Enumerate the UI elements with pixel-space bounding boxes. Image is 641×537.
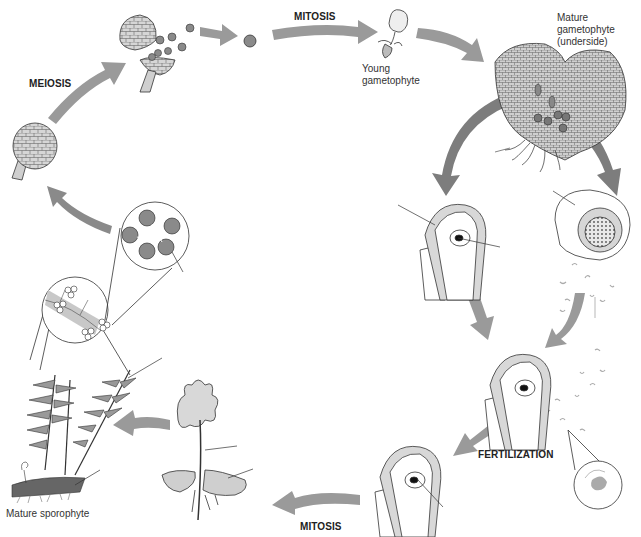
arrow-mitosis-top [272, 20, 378, 44]
single-spore [244, 35, 256, 47]
zygote-archegonium [375, 446, 441, 537]
archegonium [420, 204, 486, 300]
sori-detail-circle [30, 277, 130, 375]
arrow-meiosis [48, 62, 126, 124]
label-meiosis: MEIOSIS [29, 78, 71, 89]
sporangium-closed [12, 123, 57, 180]
sperm-cells [545, 264, 614, 432]
young-gametophyte [378, 10, 408, 58]
label-fertilization: FERTILIZATION [478, 449, 554, 460]
mature-sporophyte [12, 370, 136, 503]
label-young-gametophyte: Young gametophyte [362, 63, 420, 87]
label-mitosis-bottom: MITOSIS [300, 521, 342, 532]
label-line: gametophyte [557, 24, 615, 36]
arrow-to-mature-gametophyte [416, 28, 484, 62]
label-mature-sporophyte: Mature sporophyte [6, 508, 89, 520]
mature-gametophyte [495, 43, 626, 172]
leader-line [228, 469, 253, 478]
young-sporophyte [162, 380, 246, 520]
leader-line [205, 446, 237, 450]
arrow-to-mature-sporophyte [113, 410, 170, 436]
label-line: (underside) [557, 36, 615, 48]
antheridium [555, 190, 630, 260]
leader-line [128, 358, 162, 378]
archegonium-fertilization [485, 354, 551, 450]
arrow-to-sporangium [47, 186, 112, 234]
arrow-sperm-down [545, 293, 585, 348]
sporangia-detail-circle [105, 202, 189, 325]
arrow-spore [200, 24, 238, 46]
arrow-mitosis-bottom [272, 491, 360, 515]
label-line: gametophyte [362, 75, 420, 87]
sperm-detail-circle [568, 430, 622, 509]
leader-line [398, 205, 435, 225]
label-mature-gametophyte: Mature gametophyte (underside) [557, 12, 615, 48]
label-mitosis-top: MITOSIS [294, 11, 336, 22]
label-line: Young [362, 63, 420, 75]
label-line: Mature [557, 12, 615, 24]
